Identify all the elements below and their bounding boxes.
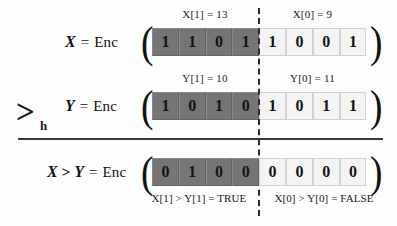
row-label-result: X > Y = Enc — [47, 158, 126, 186]
bit-cell: 0 — [232, 158, 259, 186]
bit-cell: 1 — [179, 158, 206, 186]
operator-subscript: h — [40, 119, 47, 132]
bit-cell: 1 — [152, 92, 179, 120]
row-x-close-paren: ) — [370, 21, 382, 65]
bit-cell: 0 — [232, 92, 259, 120]
bit-cell: 0 — [206, 28, 233, 56]
bit-cell: 0 — [206, 158, 233, 186]
row-x-equals: = — [81, 34, 89, 51]
row-x-enc: Enc — [94, 34, 118, 51]
limb-label-y-low: Y[0] = 11 — [259, 72, 366, 84]
row-y-equals: = — [80, 98, 88, 115]
row-x-variable: X — [65, 33, 76, 51]
horizontal-divider — [18, 138, 383, 140]
row-label-x: X = Enc — [65, 28, 118, 56]
bit-cell: 0 — [259, 158, 286, 186]
bit-cell: 1 — [313, 92, 340, 120]
row-y-enc: Enc — [93, 98, 117, 115]
row-label-y: Y = Enc — [65, 92, 117, 120]
bit-cell: 1 — [340, 92, 367, 120]
figure-canvas: X[1] = 13 X[0] = 9 X = Enc ( 1 1 0 1 1 0… — [0, 0, 397, 226]
row-result-relation: > — [62, 164, 71, 181]
conclusion-low-limb: X[0] > Y[0] = FALSE — [262, 192, 386, 204]
row-y-variable: Y — [65, 97, 75, 115]
bit-cell: 0 — [340, 158, 367, 186]
bit-cell: 1 — [340, 28, 367, 56]
bit-cell: 1 — [259, 92, 286, 120]
row-result-enc: Enc — [102, 164, 126, 181]
bit-cell: 1 — [232, 28, 259, 56]
row-result-variable-y: Y — [74, 163, 84, 181]
bit-cell: 0 — [286, 158, 313, 186]
limb-label-x-high: X[1] = 13 — [152, 8, 258, 20]
bit-cell: 0 — [179, 92, 206, 120]
row-y-close-paren: ) — [370, 85, 382, 129]
limb-label-y-high: Y[1] = 10 — [152, 72, 258, 84]
bit-cell: 0 — [313, 28, 340, 56]
bit-cell: 0 — [286, 92, 313, 120]
register-result: 0 1 0 0 0 0 0 0 — [152, 158, 366, 186]
greater-than-h-operator-icon: > h — [16, 100, 62, 138]
bit-cell: 1 — [152, 28, 179, 56]
bit-cell: 1 — [206, 92, 233, 120]
bit-cell: 0 — [286, 28, 313, 56]
conclusion-high-limb: X[1] > Y[1] = TRUE — [140, 192, 258, 204]
bit-cell: 0 — [313, 158, 340, 186]
row-result-variable-x: X — [47, 163, 58, 181]
bit-cell: 1 — [259, 28, 286, 56]
limb-label-x-low: X[0] = 9 — [259, 8, 366, 20]
bit-cell: 0 — [152, 158, 179, 186]
row-result-close-paren: ) — [370, 151, 382, 195]
greater-than-symbol: > — [16, 96, 35, 129]
row-result-equals: = — [89, 164, 97, 181]
bit-cell: 1 — [179, 28, 206, 56]
